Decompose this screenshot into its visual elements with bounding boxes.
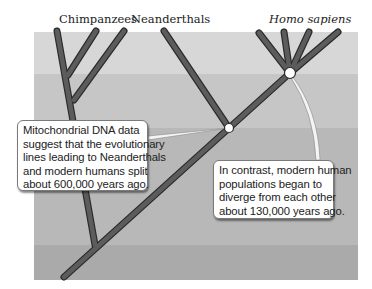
callout-line: Mitochondrial DNA data bbox=[23, 124, 142, 138]
callout-line: about 130,000 years ago. bbox=[219, 205, 328, 219]
label-chimpanzees: Chimpanzees bbox=[59, 12, 137, 26]
callout-line: and modern humans split bbox=[23, 165, 142, 179]
callout-line: diverge from each other bbox=[219, 191, 328, 205]
callout-line: about 600,000 years ago. bbox=[23, 178, 142, 192]
label-homo-sapiens: Homo sapiens bbox=[269, 12, 351, 26]
split-node-130k bbox=[285, 68, 296, 79]
callout-line: lines leading to Neanderthals bbox=[23, 151, 142, 165]
callout-line: In contrast, modern human bbox=[219, 164, 328, 178]
leader-line-divergence bbox=[290, 76, 320, 160]
callout-line: suggest that the evolutionary bbox=[23, 138, 142, 152]
split-node-600k bbox=[225, 124, 234, 133]
callout-mtdna-split: Mitochondrial DNA data suggest that the … bbox=[17, 120, 148, 191]
label-neanderthals: Neanderthals bbox=[131, 12, 210, 26]
callout-human-divergence: In contrast, modern human populations be… bbox=[213, 160, 334, 219]
callout-line: populations began to bbox=[219, 178, 328, 192]
